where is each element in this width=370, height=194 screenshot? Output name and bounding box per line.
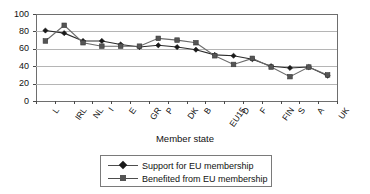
legend-marker-square-icon — [108, 173, 138, 184]
data-point-marker-square — [100, 44, 105, 49]
data-point-marker-square — [231, 62, 236, 67]
legend-marker-diamond-icon — [108, 160, 138, 171]
data-point-marker-square — [137, 44, 142, 49]
data-point-marker-square — [62, 23, 67, 28]
data-point-marker-square — [288, 74, 293, 79]
data-point-marker-square — [81, 40, 86, 45]
plot-border — [37, 15, 338, 102]
data-point-marker-square — [156, 36, 161, 41]
data-point-marker-square — [212, 53, 217, 58]
chart-container: 020406080100 LIRLNLIEGRPDKBEU15DFFINSAUK… — [0, 0, 370, 194]
data-point-marker-square — [194, 40, 199, 45]
data-point-marker-square — [43, 39, 48, 44]
data-point-marker-square — [325, 73, 330, 78]
legend-item-support: Support for EU membership — [101, 159, 271, 172]
data-point-marker-square — [269, 65, 274, 70]
data-point-marker-square — [175, 38, 180, 43]
data-point-marker-square — [250, 56, 255, 61]
data-point-marker-square — [306, 65, 311, 70]
legend-item-benefited: Benefited from EU membership — [101, 172, 271, 185]
legend-label-benefited: Benefited from EU membership — [142, 174, 268, 184]
chart-legend: Support for EU membership Benefited from… — [100, 155, 272, 187]
legend-label-support: Support for EU membership — [142, 161, 254, 171]
data-point-marker-square — [118, 44, 123, 49]
x-axis-title: Member state — [0, 133, 370, 144]
